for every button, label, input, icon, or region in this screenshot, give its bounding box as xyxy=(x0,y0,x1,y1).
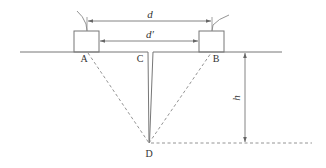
crack xyxy=(148,52,153,143)
label-point-d: D xyxy=(145,148,152,159)
cable-b-icon xyxy=(212,15,229,31)
label-d-prime: d′ xyxy=(146,28,155,40)
path-a-to-d xyxy=(88,53,149,143)
label-d: d xyxy=(147,8,153,20)
label-point-c: C xyxy=(137,53,144,64)
label-point-b: B xyxy=(213,53,220,64)
wave-paths xyxy=(88,53,312,143)
label-h: h xyxy=(230,95,242,101)
transducer-b-box xyxy=(199,31,224,52)
path-d-to-b xyxy=(149,53,211,143)
crack-depth-diagram: d d′ h A C B D xyxy=(0,0,326,168)
cable-a-icon xyxy=(77,11,87,31)
transducer-a-box xyxy=(74,31,99,52)
label-point-a: A xyxy=(80,53,88,64)
